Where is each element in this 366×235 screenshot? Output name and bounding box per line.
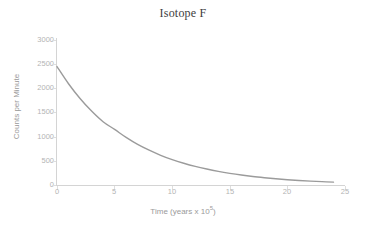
x-axis-line [56,185,345,186]
x-tick-label-10: 10 [160,187,184,197]
y-tick-label-1000: 1000 [20,133,54,141]
chart-title: Isotope F [0,6,366,21]
x-tick-label-25: 25 [333,187,357,197]
y-axis-line [56,38,57,186]
x-axis-title-prefix: Time (years x 10 [150,207,209,216]
x-axis-title: Time (years x 105) [0,205,366,216]
y-tick-label-1500: 1500 [20,108,54,116]
x-axis-tick-labels: 0 5 10 15 20 25 [0,187,366,201]
x-tick-label-20: 20 [275,187,299,197]
x-tick-label-15: 15 [218,187,242,197]
x-tick-label-0: 0 [45,187,69,197]
x-tick-label-5: 5 [102,187,126,197]
y-tick-label-500: 500 [20,157,54,165]
x-axis-title-suffix: ) [213,207,216,216]
y-tick-label-2500: 2500 [20,60,54,68]
y-tick-label-3000: 3000 [20,36,54,44]
chart-container: Isotope F Counts per Minute 3000 2500 20… [0,0,366,235]
y-tick-label-2000: 2000 [20,84,54,92]
